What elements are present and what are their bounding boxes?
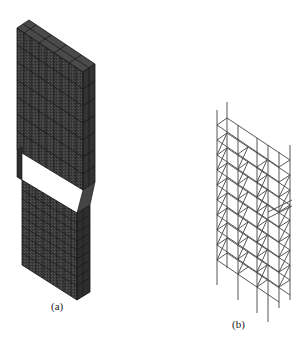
panel-b-label: (b) — [232, 318, 245, 330]
frame-skeleton-model — [0, 0, 304, 339]
